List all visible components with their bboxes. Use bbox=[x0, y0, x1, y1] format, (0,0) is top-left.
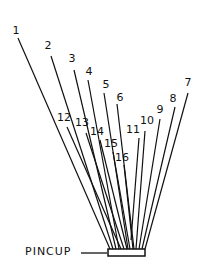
pin-line-4 bbox=[88, 80, 119, 249]
pin-label-3: 3 bbox=[69, 53, 76, 64]
pincup-shape bbox=[108, 249, 145, 256]
pin-label-9: 9 bbox=[157, 104, 164, 115]
pin-label-11: 11 bbox=[126, 124, 140, 135]
pin-label-10: 10 bbox=[140, 115, 154, 126]
pin-label-7: 7 bbox=[185, 77, 192, 88]
pin-label-13: 13 bbox=[75, 117, 89, 128]
pincup-diagram: 12345678910111213141516 PINCUP bbox=[0, 0, 206, 272]
pincup-label: PINCUP bbox=[25, 245, 71, 258]
pin-line-1 bbox=[18, 38, 110, 249]
pin-label-12: 12 bbox=[57, 112, 71, 123]
pin-label-16: 16 bbox=[115, 152, 129, 163]
pin-label-4: 4 bbox=[86, 66, 93, 77]
pin-line-16 bbox=[124, 165, 133, 249]
pin-label-14: 14 bbox=[90, 126, 104, 137]
pin-label-6: 6 bbox=[117, 92, 124, 103]
pin-label-1: 1 bbox=[13, 25, 20, 36]
pin-label-2: 2 bbox=[45, 40, 52, 51]
pin-line-10 bbox=[136, 131, 145, 249]
pin-label-5: 5 bbox=[103, 79, 110, 90]
pin-label-8: 8 bbox=[170, 93, 177, 104]
pin-label-15: 15 bbox=[104, 138, 118, 149]
